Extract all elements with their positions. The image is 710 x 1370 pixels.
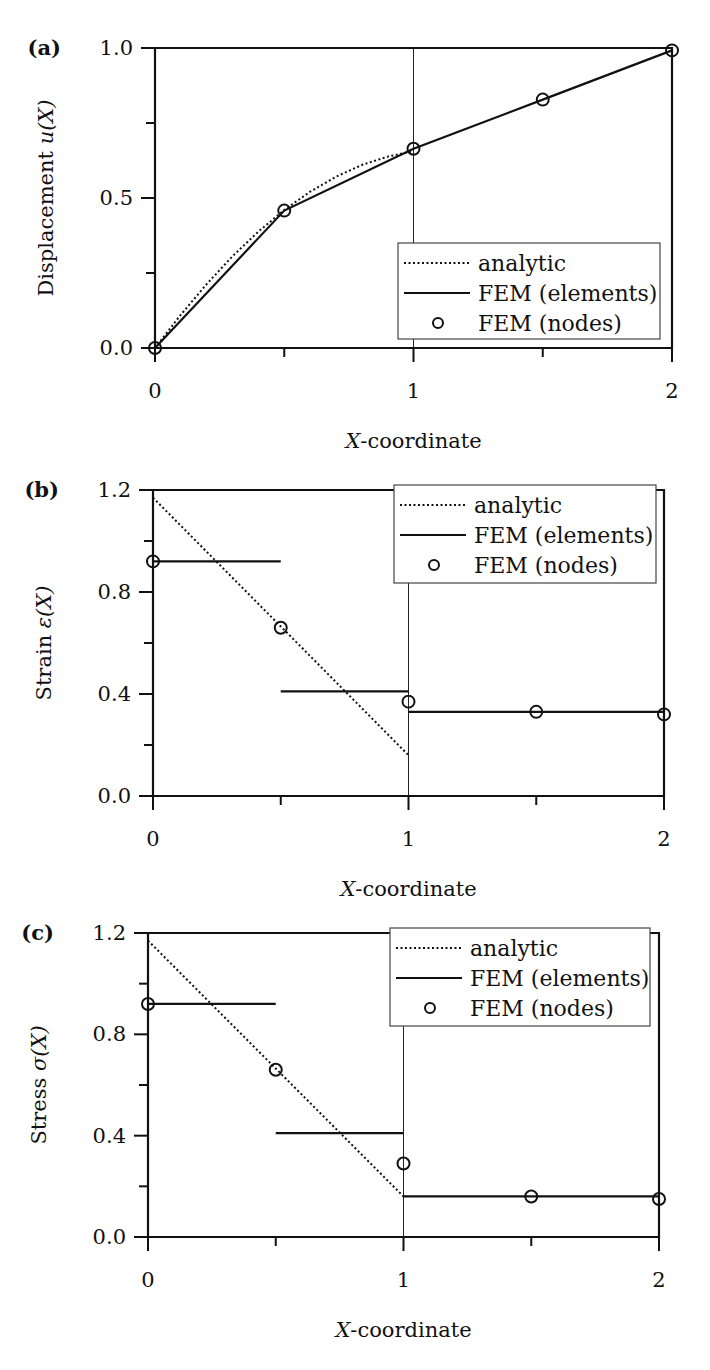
chart-b: 0.00.40.81.2012(b)Strain ε(X)X-coordinat… [0, 440, 710, 880]
legend: analyticFEM (elements)FEM (nodes) [398, 243, 660, 339]
legend: analyticFEM (elements)FEM (nodes) [390, 928, 650, 1026]
x-tick-label: 0 [141, 1268, 154, 1292]
y-tick-label: 0.8 [98, 580, 131, 604]
legend: analyticFEM (elements)FEM (nodes) [394, 485, 656, 583]
legend-label: FEM (nodes) [474, 553, 618, 578]
panel-label: (a) [28, 35, 61, 60]
legend-label: FEM (elements) [474, 523, 653, 548]
y-axis-label: Strain ε(X) [32, 586, 56, 701]
y-tick-label: 0.8 [93, 1022, 126, 1046]
y-axis-label: Displacement u(X) [34, 99, 58, 296]
x-tick-label: 2 [652, 1268, 665, 1292]
y-tick-label: 0.5 [100, 186, 133, 210]
legend-label: analytic [474, 493, 562, 518]
y-tick-label: 0.0 [100, 336, 133, 360]
x-tick-label: 1 [402, 827, 415, 851]
fem-node-marker [275, 622, 287, 634]
y-tick-label: 0.4 [98, 682, 131, 706]
legend-label: analytic [470, 936, 558, 961]
y-tick-label: 0.4 [93, 1124, 126, 1148]
x-tick-label: 2 [665, 379, 678, 403]
panel-label: (c) [21, 920, 54, 945]
chart-a: 0.00.51.0012(a)Displacement u(X)X-coordi… [0, 0, 710, 440]
legend-label: FEM (elements) [470, 966, 649, 991]
y-tick-label: 1.0 [100, 36, 133, 60]
analytic-curve [155, 151, 414, 348]
analytic-curve [148, 941, 404, 1197]
x-tick-label: 0 [146, 827, 159, 851]
x-axis-label: X-coordinate [333, 1318, 471, 1342]
panel-b-strain: 0.00.40.81.2012(b)Strain ε(X)X-coordinat… [0, 440, 710, 880]
y-tick-label: 1.2 [98, 478, 131, 502]
panel-label: (b) [24, 477, 59, 502]
x-tick-label: 1 [407, 379, 420, 403]
legend-label: FEM (elements) [478, 281, 657, 306]
y-tick-label: 1.2 [93, 921, 126, 945]
panel-a-displacement: 0.00.51.0012(a)Displacement u(X)X-coordi… [0, 0, 710, 440]
y-axis-label: Stress σ(X) [27, 1025, 51, 1144]
y-tick-label: 0.0 [98, 784, 131, 808]
analytic-curve [153, 498, 409, 756]
legend-label: analytic [478, 251, 566, 276]
legend-label: FEM (nodes) [470, 996, 614, 1021]
y-tick-label: 0.0 [93, 1225, 126, 1249]
x-tick-label: 1 [397, 1268, 410, 1292]
panel-c-stress: 0.00.40.81.2012(c)Stress σ(X)X-coordinat… [0, 880, 710, 1360]
chart-c: 0.00.40.81.2012(c)Stress σ(X)X-coordinat… [0, 880, 710, 1360]
x-tick-label: 2 [657, 827, 670, 851]
x-tick-label: 0 [148, 379, 161, 403]
legend-label: FEM (nodes) [478, 311, 622, 336]
